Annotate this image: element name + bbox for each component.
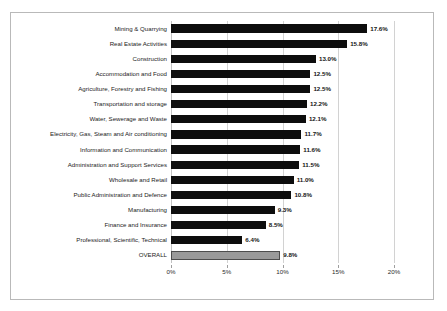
bar-row: Wholesale and Retail11.0% — [11, 173, 433, 186]
category-label: Information and Communication — [11, 147, 167, 153]
category-label: Construction — [11, 56, 167, 62]
bar-track: 17.6% — [171, 22, 433, 35]
x-tick-label: 5% — [222, 269, 231, 275]
x-tick-label: 15% — [332, 269, 344, 275]
bar-rows: Mining & Quarrying17.6%Real Estate Activ… — [11, 21, 433, 263]
category-label: Administration and Support Services — [11, 162, 167, 168]
x-tick-label: 0% — [167, 269, 176, 275]
category-label: Water, Sewerage and Waste — [11, 116, 167, 122]
bar-track: 11.7% — [171, 128, 433, 141]
bar-row: Agriculture, Forestry and Fishing12.5% — [11, 82, 433, 95]
bar-row: Administration and Support Services11.5% — [11, 158, 433, 171]
x-tick-label: 10% — [276, 269, 288, 275]
bar-track: 15.8% — [171, 37, 433, 50]
bar-row: Professional, Scientific, Technical6.4% — [11, 234, 433, 247]
x-tick-mark — [338, 265, 339, 268]
bar-value-label: 11.6% — [303, 146, 320, 152]
bar — [171, 161, 299, 169]
bar-track: 12.5% — [171, 67, 433, 80]
category-label: Manufacturing — [11, 207, 167, 213]
bar-value-label: 8.5% — [269, 222, 283, 228]
bar-value-label: 6.4% — [245, 237, 259, 243]
bar-row: Finance and Insurance8.5% — [11, 218, 433, 231]
x-tick-mark — [283, 265, 284, 268]
bar-row: Real Estate Activities15.8% — [11, 37, 433, 50]
bar-value-label: 11.5% — [302, 162, 319, 168]
bar-value-label: 12.1% — [309, 116, 327, 122]
bar-value-label: 11.7% — [304, 131, 321, 137]
x-axis-tick-labels: 0%5%10%15%20% — [11, 269, 433, 279]
bar — [171, 221, 266, 229]
bar-value-label: 12.5% — [313, 71, 331, 77]
bar-row: Mining & Quarrying17.6% — [11, 22, 433, 35]
x-tick-mark — [227, 265, 228, 268]
bar-track: 12.2% — [171, 97, 433, 110]
bar-track: 9.3% — [171, 203, 433, 216]
bar-track: 12.1% — [171, 113, 433, 126]
x-tick-mark — [171, 265, 172, 268]
bar-row: Manufacturing9.3% — [11, 203, 433, 216]
bar-track: 11.6% — [171, 143, 433, 156]
category-label: Finance and Insurance — [11, 222, 167, 228]
bar-row: Information and Communication11.6% — [11, 143, 433, 156]
category-label: Public Administration and Defence — [11, 192, 167, 198]
bar-row: Electricity, Gas, Steam and Air conditio… — [11, 128, 433, 141]
bar-track: 13.0% — [171, 52, 433, 65]
bar — [171, 236, 242, 244]
bar-value-label: 13.0% — [319, 56, 337, 62]
bar-row: Accommodation and Food12.5% — [11, 67, 433, 80]
category-label: Electricity, Gas, Steam and Air conditio… — [11, 131, 167, 137]
bar-track: 6.4% — [171, 234, 433, 247]
category-label: Mining & Quarrying — [11, 26, 167, 32]
category-label: Accommodation and Food — [11, 71, 167, 77]
bar-row: Construction13.0% — [11, 52, 433, 65]
bar-track: 9.8% — [171, 249, 433, 262]
bar-value-label: 10.8% — [294, 192, 312, 198]
chart-figure: Mining & Quarrying17.6%Real Estate Activ… — [10, 12, 434, 300]
category-label: Agriculture, Forestry and Fishing — [11, 86, 167, 92]
category-label: Wholesale and Retail — [11, 177, 167, 183]
bar-value-label: 12.5% — [313, 86, 331, 92]
category-label: Real Estate Activities — [11, 41, 167, 47]
bar — [171, 251, 280, 259]
bar-row: Transportation and storage12.2% — [11, 97, 433, 110]
bar-value-label: 11.0% — [297, 177, 314, 183]
category-label: Professional, Scientific, Technical — [11, 237, 167, 243]
bar — [171, 145, 300, 153]
bar-value-label: 15.8% — [350, 41, 368, 47]
bar-track: 8.5% — [171, 218, 433, 231]
category-label: OVERALL — [11, 252, 167, 258]
bar — [171, 85, 310, 93]
bar-track: 10.8% — [171, 188, 433, 201]
x-tick-label: 20% — [388, 269, 400, 275]
category-label: Transportation and storage — [11, 101, 167, 107]
bar — [171, 70, 310, 78]
x-tick-mark — [394, 265, 395, 268]
bar-value-label: 12.2% — [310, 101, 328, 107]
bar — [171, 100, 307, 108]
bar-row: Water, Sewerage and Waste12.1% — [11, 113, 433, 126]
bar-track: 11.0% — [171, 173, 433, 186]
bar-track: 12.5% — [171, 82, 433, 95]
bar — [171, 24, 367, 32]
bar — [171, 55, 316, 63]
bar — [171, 115, 306, 123]
bar — [171, 176, 294, 184]
bar-value-label: 17.6% — [370, 25, 388, 31]
bar-value-label: 9.3% — [278, 207, 292, 213]
bar — [171, 130, 301, 138]
bar — [171, 206, 275, 214]
bar — [171, 40, 347, 48]
plot-area: Mining & Quarrying17.6%Real Estate Activ… — [11, 13, 433, 299]
bar-row: Public Administration and Defence10.8% — [11, 188, 433, 201]
bar-row: OVERALL9.8% — [11, 249, 433, 262]
bar-value-label: 9.8% — [283, 252, 297, 258]
bar — [171, 191, 291, 199]
bar-track: 11.5% — [171, 158, 433, 171]
